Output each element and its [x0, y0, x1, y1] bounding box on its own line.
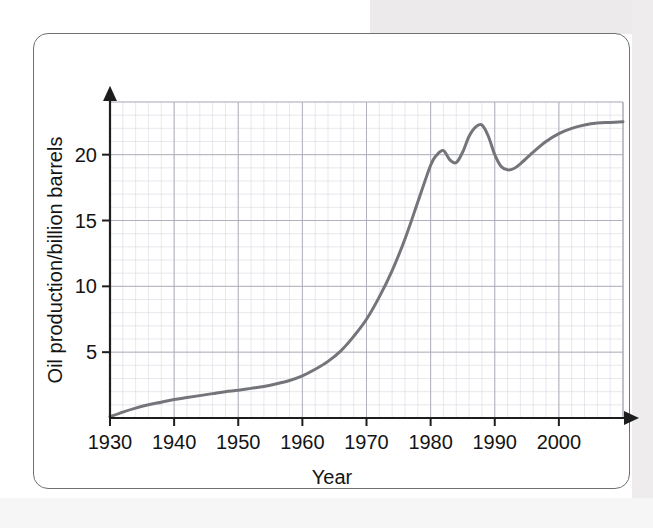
- y-tick-label: 15: [75, 210, 97, 232]
- x-axis-tick-labels: 19301940195019601970198019902000: [88, 431, 581, 453]
- line-chart: 5101520 19301940195019601970198019902000…: [0, 0, 653, 528]
- x-tick-label: 1990: [473, 431, 518, 453]
- x-axis-ticks: [110, 418, 559, 426]
- page-root: 5101520 19301940195019601970198019902000…: [0, 0, 653, 528]
- x-tick-label: 1970: [344, 431, 389, 453]
- y-axis-tick-labels: 5101520: [75, 144, 97, 363]
- x-tick-label: 1940: [152, 431, 197, 453]
- x-axis-title: Year: [312, 466, 353, 488]
- x-tick-label: 1960: [280, 431, 325, 453]
- chart-area: 5101520 19301940195019601970198019902000…: [0, 0, 653, 528]
- y-tick-label: 10: [75, 275, 97, 297]
- y-axis-ticks: [102, 155, 110, 352]
- y-tick-label: 5: [86, 341, 97, 363]
- x-tick-label: 1930: [88, 431, 133, 453]
- x-tick-label: 1950: [216, 431, 261, 453]
- y-axis-title: Oil production/billion barrels: [44, 137, 66, 384]
- x-tick-label: 2000: [537, 431, 582, 453]
- x-tick-label: 1980: [408, 431, 453, 453]
- y-tick-label: 20: [75, 144, 97, 166]
